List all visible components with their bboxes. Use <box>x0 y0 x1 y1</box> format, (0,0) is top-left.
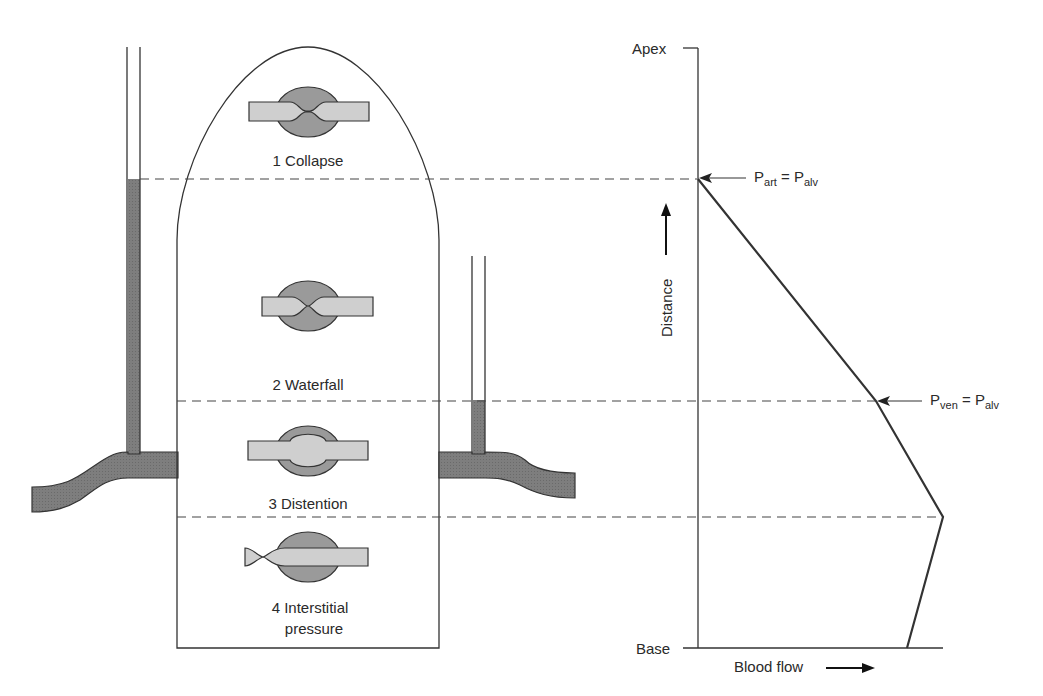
blood-flow-curve <box>698 179 943 648</box>
distance-arrow-icon <box>661 203 671 255</box>
subscript-ven: ven <box>940 399 958 411</box>
zone2-capillary-icon <box>262 281 373 331</box>
zone1-label: 1 Collapse <box>208 151 408 171</box>
pressure-symbol: P <box>794 168 804 185</box>
base-label: Base <box>636 640 670 657</box>
zone2-label: 2 Waterfall <box>208 375 408 395</box>
arterial-manometer <box>127 47 140 454</box>
zone3-capillary-icon <box>248 426 368 476</box>
zone4-label-line1: 4 Interstitial <box>210 598 410 618</box>
zone3-label: 3 Distention <box>208 494 408 514</box>
pressure-symbol: P <box>930 391 940 408</box>
pressure-symbol: P <box>975 391 985 408</box>
apex-label: Apex <box>632 40 666 57</box>
subscript-alv: alv <box>804 176 818 188</box>
pressure-symbol: P <box>754 168 764 185</box>
equals-sign: = <box>777 168 794 185</box>
annotation-pven-palv: Pven = Palv <box>930 391 999 408</box>
diagram-canvas <box>0 0 1043 696</box>
arterial-inflow-vessel <box>32 452 178 512</box>
blood-flow-label: Blood flow <box>734 658 803 675</box>
subscript-alv: alv <box>985 399 999 411</box>
arrow-part-palv <box>699 173 746 183</box>
distance-label: Distance <box>658 279 675 337</box>
zone4-capillary-icon <box>245 532 368 582</box>
annotation-part-palv: Part = Palv <box>754 168 818 185</box>
zone4-label-line2: pressure <box>214 619 414 639</box>
graph-axes <box>683 48 943 648</box>
zone1-capillary-icon <box>249 87 369 137</box>
venous-outflow-vessel <box>439 452 575 498</box>
venous-manometer <box>472 256 485 454</box>
subscript-art: art <box>764 176 777 188</box>
equals-sign: = <box>958 391 975 408</box>
arrow-pven-palv <box>877 396 922 406</box>
blood-flow-arrow-icon <box>826 663 875 673</box>
